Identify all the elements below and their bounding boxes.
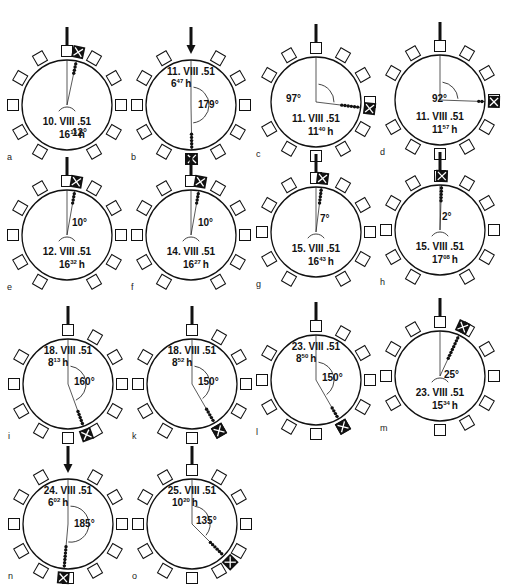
empty-box bbox=[335, 326, 350, 341]
empty-box bbox=[157, 423, 172, 438]
empty-box bbox=[335, 48, 350, 63]
empty-box bbox=[311, 429, 322, 440]
empty-box bbox=[262, 197, 277, 212]
track-dot bbox=[195, 201, 198, 204]
date-label: 11. VIII .51 bbox=[292, 113, 340, 124]
empty-box bbox=[33, 423, 48, 438]
track-dot bbox=[73, 65, 76, 68]
track-dot bbox=[72, 195, 75, 198]
angle-arc bbox=[59, 107, 75, 111]
panel-m: 25°23. VIII .511534hm bbox=[380, 298, 500, 436]
empty-box bbox=[230, 200, 245, 215]
feeder-box-icon bbox=[316, 172, 329, 185]
panel-c: 97°11. VIII .511140hc bbox=[256, 24, 376, 162]
panels-group: 12°10. VIII .511613ha179°11. VIII .51647… bbox=[7, 22, 500, 584]
feeder-box-icon bbox=[335, 419, 351, 435]
panel-letter: c bbox=[256, 149, 261, 159]
empty-box bbox=[489, 225, 500, 236]
empty-box bbox=[459, 46, 474, 61]
empty-box bbox=[231, 403, 246, 418]
empty-box bbox=[9, 379, 20, 390]
angle-arc bbox=[319, 84, 334, 102]
empty-box bbox=[138, 403, 153, 418]
time-label: 602h bbox=[48, 497, 68, 508]
track-dot bbox=[448, 354, 451, 357]
panel-a: 12°10. VIII .511613ha bbox=[7, 27, 127, 162]
track-dot bbox=[209, 541, 212, 544]
panel-d: 92°11. VIII .511157hd bbox=[380, 22, 500, 160]
time-label: 1613h bbox=[59, 129, 85, 140]
empty-box bbox=[311, 321, 322, 332]
track-dot bbox=[440, 186, 443, 189]
track-dot bbox=[439, 196, 442, 199]
empty-box bbox=[156, 51, 171, 66]
track-dot bbox=[318, 198, 321, 201]
date-label: 23. VIII .51 bbox=[292, 341, 341, 352]
track-dot bbox=[356, 105, 359, 108]
time-label: 1140h bbox=[308, 126, 333, 137]
empty-box bbox=[335, 178, 350, 193]
empty-box bbox=[381, 371, 392, 382]
time-label: 1708h bbox=[432, 254, 458, 265]
empty-box bbox=[386, 195, 401, 210]
empty-box bbox=[479, 195, 494, 210]
empty-box bbox=[33, 470, 48, 485]
empty-box bbox=[106, 124, 121, 139]
empty-box bbox=[230, 70, 245, 85]
track-dot bbox=[353, 105, 356, 108]
angle-arc bbox=[308, 234, 324, 238]
panel-h: 2°15. VIII .511708hh bbox=[380, 152, 500, 287]
feeder-box-icon bbox=[436, 170, 448, 182]
panel-b: 179°11. VIII .51647hb bbox=[131, 27, 251, 165]
track-dot bbox=[319, 189, 322, 192]
empty-box bbox=[187, 573, 198, 584]
track-dot bbox=[455, 339, 458, 342]
empty-box bbox=[138, 349, 153, 364]
empty-box bbox=[87, 330, 102, 345]
empty-box bbox=[86, 144, 101, 159]
empty-box bbox=[230, 254, 245, 269]
empty-box bbox=[210, 181, 225, 196]
panel-letter: m bbox=[380, 423, 388, 433]
track-dot bbox=[197, 192, 200, 195]
empty-box bbox=[8, 100, 19, 111]
empty-box bbox=[355, 345, 370, 360]
panel-letter: n bbox=[8, 571, 13, 581]
empty-box bbox=[355, 399, 370, 414]
empty-box bbox=[32, 274, 47, 289]
empty-box bbox=[137, 124, 152, 139]
empty-box bbox=[257, 375, 268, 386]
empty-box bbox=[63, 325, 74, 336]
panel-e: 10°12. VIII .511632he bbox=[7, 157, 127, 292]
track-dot bbox=[195, 198, 198, 201]
track-dot bbox=[331, 406, 334, 409]
empty-box bbox=[262, 251, 277, 266]
empty-box bbox=[231, 543, 246, 558]
empty-box bbox=[262, 67, 277, 82]
empty-box bbox=[355, 251, 370, 266]
empty-box bbox=[479, 119, 494, 134]
empty-box bbox=[63, 433, 74, 444]
panel-letter: b bbox=[131, 152, 136, 162]
empty-box bbox=[386, 249, 401, 264]
angle-label: 135° bbox=[196, 515, 217, 526]
empty-box bbox=[106, 70, 121, 85]
track-dot bbox=[77, 413, 80, 416]
panel-g: 7°15. VIII .511643hg bbox=[256, 154, 376, 289]
empty-box bbox=[281, 48, 296, 63]
panel-letter: a bbox=[7, 152, 12, 162]
empty-box bbox=[86, 274, 101, 289]
empty-box bbox=[107, 403, 122, 418]
time-label: 1643h bbox=[308, 256, 334, 267]
track-dot bbox=[456, 336, 459, 339]
track-dot bbox=[80, 419, 83, 422]
empty-box bbox=[281, 271, 296, 286]
empty-box bbox=[86, 51, 101, 66]
angle-arc bbox=[432, 232, 448, 236]
empty-box bbox=[87, 563, 102, 578]
angle-label: 150° bbox=[198, 376, 219, 387]
empty-box bbox=[107, 349, 122, 364]
empty-box bbox=[138, 489, 153, 504]
track-dot bbox=[350, 105, 353, 108]
empty-box bbox=[435, 317, 446, 328]
